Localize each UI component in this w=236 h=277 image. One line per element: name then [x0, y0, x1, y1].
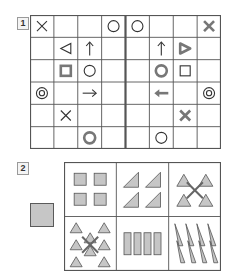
- arrow-up-icon: [86, 42, 93, 56]
- triangle-left-icon: [61, 44, 71, 54]
- circle-icon: [132, 21, 143, 32]
- triangle-right-icon: [180, 44, 190, 54]
- choice-rectangles[interactable]: [124, 233, 161, 255]
- x-icon: [37, 21, 47, 31]
- choice-triangles-with-x[interactable]: [70, 223, 110, 267]
- x-icon: [180, 111, 190, 121]
- question-number-2: 2: [17, 162, 29, 175]
- circle-icon: [108, 21, 119, 32]
- double-circle-icon: [36, 88, 47, 99]
- circle-icon: [156, 132, 167, 143]
- circle-icon: [84, 65, 95, 76]
- choice-squares[interactable]: [74, 173, 106, 205]
- question-number-1: 1: [17, 17, 29, 30]
- square-icon: [180, 66, 190, 76]
- arrow-left-icon: [154, 89, 168, 97]
- x-icon: [204, 21, 214, 31]
- choice-right-triangles[interactable]: [124, 172, 161, 207]
- circle-icon: [84, 132, 95, 143]
- arrow-right-icon: [83, 90, 97, 97]
- circle-icon: [156, 65, 167, 76]
- mirror-puzzle-grid: [30, 15, 221, 149]
- square-icon: [61, 66, 71, 76]
- double-circle-icon: [204, 88, 215, 99]
- choice-tall-triangles[interactable]: [175, 224, 218, 263]
- sample-gray-square: [30, 203, 54, 227]
- shape-choice-grid: [64, 162, 221, 271]
- arrow-up-icon: [158, 42, 165, 56]
- x-icon: [61, 111, 71, 121]
- choice-triangles-with-x[interactable]: [177, 174, 213, 206]
